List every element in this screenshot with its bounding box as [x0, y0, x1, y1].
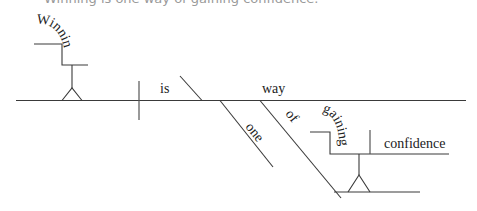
word-of: of	[283, 106, 302, 125]
word-winning: Winning	[0, 0, 76, 49]
word-gaining: gaining	[321, 100, 352, 146]
object-stilt-foot	[348, 175, 370, 192]
word-is: is	[160, 81, 169, 96]
word-way: way	[262, 81, 285, 96]
complement-slash	[180, 76, 202, 101]
subject-stilt-foot	[62, 88, 82, 101]
sentence-diagram: Winning is way one of gaining confidence	[0, 0, 477, 211]
word-confidence: confidence	[384, 136, 445, 151]
word-one: one	[243, 119, 267, 144]
